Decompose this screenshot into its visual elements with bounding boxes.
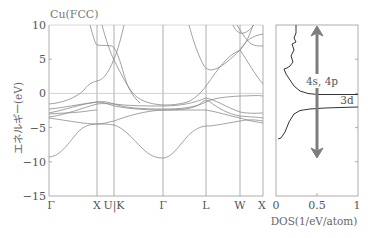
band-curves bbox=[49, 25, 263, 158]
kpoint-uk: U|K bbox=[103, 199, 125, 213]
annotation-4s4p: 4s, 4p bbox=[306, 75, 338, 87]
chart-title: Cu(FCC) bbox=[50, 8, 99, 21]
energy-range-arrow bbox=[311, 26, 323, 158]
kpoint-w: W bbox=[234, 199, 246, 212]
kpoint-x-1: X bbox=[93, 199, 101, 212]
dos-tick-05: 0.5 bbox=[308, 199, 326, 212]
dos-x-axis-label: DOS(1/eV/atom) bbox=[271, 215, 358, 227]
ytick-m15: −15 bbox=[23, 190, 46, 203]
ytick-10: 10 bbox=[32, 19, 46, 32]
ytick-0: 0 bbox=[39, 87, 46, 100]
y-tick-labels: 10 5 0 −5 −10 −15 bbox=[23, 19, 46, 203]
dos-tick-1: 1 bbox=[354, 199, 361, 212]
dos-tick-0: 0 bbox=[273, 199, 280, 212]
kpoint-l: L bbox=[202, 199, 210, 212]
ytick-5: 5 bbox=[39, 53, 46, 66]
kpoint-labels: Γ X U|K Γ L W X bbox=[47, 199, 266, 213]
annotation-3d: 3d bbox=[340, 94, 354, 106]
band-structure-figure: Cu(FCC) エネルギー(eV) 10 5 0 −5 −10 −15 bbox=[0, 0, 368, 238]
ytick-m5: −5 bbox=[30, 122, 46, 135]
dos-x-ticks: 0 0.5 1 bbox=[273, 199, 361, 212]
kpoint-gamma-2: Γ bbox=[159, 199, 167, 212]
ytick-m10: −10 bbox=[23, 156, 46, 169]
kpoint-x-2: X bbox=[258, 199, 266, 212]
kpoint-gamma-1: Γ bbox=[47, 199, 55, 212]
y-axis-label: エネルギー(eV) bbox=[12, 82, 24, 154]
